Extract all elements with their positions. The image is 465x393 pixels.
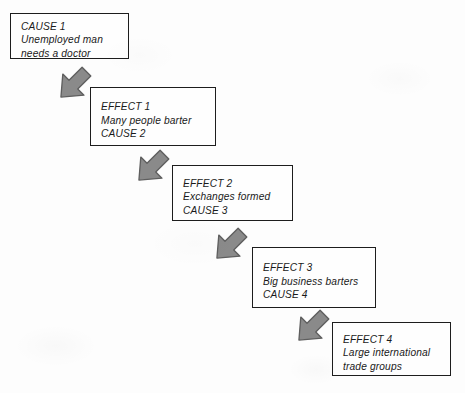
node-cause-1-line-1: CAUSE 1 — [21, 21, 66, 32]
node-effect-2-line-2: Exchanges formed — [183, 191, 270, 202]
node-effect-4-line-3: trade groups — [343, 361, 402, 372]
node-effect-1-line-2: Many people barter — [101, 115, 191, 126]
node-effect-4[interactable]: EFFECT 4 Large international trade group… — [332, 322, 451, 376]
node-effect-3-line-1: EFFECT 3 — [263, 262, 312, 273]
node-effect-2-line-3: CAUSE 3 — [183, 205, 228, 216]
arrow-effect2-to-effect3 — [208, 223, 252, 267]
arrow-effect1-to-effect2 — [130, 145, 174, 189]
node-effect-3-line-2: Big business barters — [263, 276, 358, 287]
diagram-canvas: CAUSE 1 Unemployed man needs a doctor EF… — [0, 0, 465, 393]
node-cause-1-line-3: needs a doctor — [21, 48, 91, 59]
node-effect-4-line-1: EFFECT 4 — [343, 334, 392, 345]
arrow-effect3-to-effect4 — [290, 305, 334, 349]
node-cause-1[interactable]: CAUSE 1 Unemployed man needs a doctor — [10, 13, 129, 59]
node-effect-1-line-3: CAUSE 2 — [101, 128, 146, 139]
node-effect-1[interactable]: EFFECT 1 Many people barter CAUSE 2 — [90, 87, 216, 146]
node-effect-4-line-2: Large international — [343, 347, 430, 358]
node-effect-2-line-1: EFFECT 2 — [183, 178, 232, 189]
node-effect-3[interactable]: EFFECT 3 Big business barters CAUSE 4 — [252, 247, 376, 308]
node-effect-3-line-3: CAUSE 4 — [263, 289, 308, 300]
node-effect-2[interactable]: EFFECT 2 Exchanges formed CAUSE 3 — [172, 165, 293, 221]
node-effect-1-line-1: EFFECT 1 — [101, 101, 150, 112]
node-cause-1-line-2: Unemployed man — [21, 34, 103, 45]
